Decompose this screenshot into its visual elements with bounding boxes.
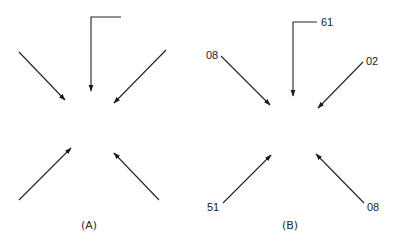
arrow-lower-right	[316, 154, 364, 203]
arrow-upper-right	[114, 50, 166, 103]
arrow-label-top: 61	[321, 16, 333, 28]
arrow-lower-left	[223, 155, 271, 203]
panel-b: 61 08 02 51 08 (B)	[206, 16, 379, 232]
arrow-upper-left	[19, 52, 65, 100]
arrow-label-lower-left: 51	[207, 201, 219, 213]
arrow-label-upper-right: 02	[366, 55, 378, 67]
panel-b-caption: (B)	[282, 219, 298, 232]
arrow-upper-left	[221, 56, 270, 105]
arrow-top-l-bend	[293, 22, 317, 96]
panel-a: (A)	[19, 17, 166, 232]
diagram-canvas: (A) 61 08 02 51 08 (B)	[0, 0, 403, 246]
arrow-label-upper-left: 08	[206, 49, 218, 61]
arrow-upper-right	[318, 62, 363, 108]
arrow-top-l-bend	[91, 17, 121, 91]
panel-a-caption: (A)	[81, 219, 97, 232]
arrow-lower-left	[19, 148, 71, 200]
arrow-lower-right	[114, 153, 159, 200]
arrow-label-lower-right: 08	[367, 201, 379, 213]
